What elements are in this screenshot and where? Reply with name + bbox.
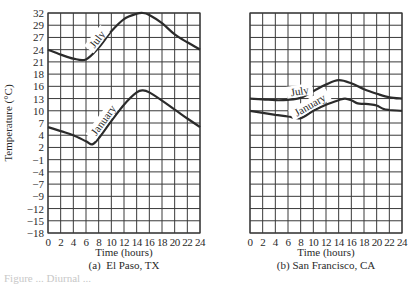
y-tick-label: 24 xyxy=(33,44,45,56)
series-label-july: July xyxy=(286,83,314,99)
y-tick-label: −4 xyxy=(32,166,44,178)
x-tick-label: 2 xyxy=(260,236,265,248)
y-tick-label: 10 xyxy=(33,105,45,117)
x-tick-label: 20 xyxy=(372,236,383,248)
x-tick-label: 22 xyxy=(384,236,394,248)
x-tick-label: 24 xyxy=(195,236,206,248)
x-tick-label: 0 xyxy=(46,236,52,248)
x-axis-title-b: Time (hours) xyxy=(297,246,355,259)
y-tick-label: −18 xyxy=(27,227,45,239)
y-tick-label: 2 xyxy=(39,141,45,153)
panel-caption-b: (b) San Francisco, CA xyxy=(277,259,375,272)
x-tick-label: 20 xyxy=(170,236,181,248)
y-tick-label: 13 xyxy=(33,93,45,105)
panel-caption-a: (a) El Paso, TX xyxy=(89,259,160,272)
x-tick-label: 6 xyxy=(84,236,90,248)
y-tick-label: 18 xyxy=(33,68,45,80)
x-axis-title-a: Time (hours) xyxy=(95,246,153,259)
grid xyxy=(250,13,402,233)
y-tick-label: −7 xyxy=(32,178,44,190)
y-tick-label: 7 xyxy=(39,117,45,129)
x-tick-label: 4 xyxy=(273,236,279,248)
x-tick-label: 22 xyxy=(182,236,192,248)
chart-san-francisco: 024681012141618202224JulyJanuary xyxy=(248,13,409,248)
y-tick-label: 4 xyxy=(39,129,45,141)
x-tick-label: 18 xyxy=(157,236,168,248)
y-tick-label: −12 xyxy=(27,203,44,215)
y-tick-label: 32 xyxy=(33,7,44,19)
y-tick-label: −1 xyxy=(32,154,44,166)
y-tick-label: −15 xyxy=(27,215,45,227)
x-tick-label: 6 xyxy=(286,236,292,248)
y-tick-label: 29 xyxy=(33,19,45,31)
y-tick-label: 21 xyxy=(33,56,44,68)
y-tick-label: 16 xyxy=(33,80,45,92)
x-tick-label: 0 xyxy=(248,236,254,248)
x-tick-label: 4 xyxy=(71,236,77,248)
x-tick-label: 24 xyxy=(397,236,408,248)
grid xyxy=(48,13,200,233)
x-tick-label: 2 xyxy=(58,236,63,248)
figure-caption-faded: Figure ... Diurnal ... xyxy=(4,272,91,284)
y-tick-label: 27 xyxy=(33,31,45,43)
chart-el-paso: 322927242118161310742−1−4−7−9−12−15−1802… xyxy=(27,7,206,248)
y-axis-title: Temperature (°C) xyxy=(2,84,15,162)
y-tick-label: −9 xyxy=(32,190,44,202)
x-tick-label: 18 xyxy=(359,236,370,248)
